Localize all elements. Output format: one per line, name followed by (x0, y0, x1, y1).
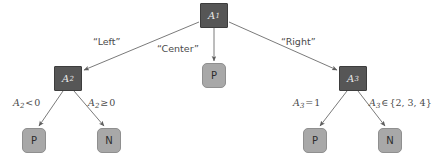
node-a1-subscript: 1 (216, 12, 220, 20)
edge-label-a3-equals-one: A3=1 (293, 98, 320, 110)
a3-eq-operator: = (305, 97, 313, 108)
leaf-node-a2-p[interactable]: P (22, 128, 46, 153)
a2-ge-operator: ≥ (100, 97, 108, 108)
edge-label-a2-ge-zero: A2≥0 (88, 98, 115, 110)
node-a1-var: A (208, 10, 215, 21)
a2-lt-subscript: 2 (20, 102, 24, 110)
edge-a2-to-leaf-p (39, 91, 63, 126)
node-a3-var: A (347, 73, 354, 84)
a3-eq-subscript: 3 (300, 102, 304, 110)
a2-lt-value: 0 (34, 97, 40, 108)
edge-label-right: “Right” (281, 37, 316, 47)
leaf-node-a3-p[interactable]: P (303, 128, 327, 153)
node-a2-var: A (62, 73, 69, 84)
edge-label-left: “Left” (93, 37, 120, 47)
a3-eq-value: 1 (314, 97, 320, 108)
a2-lt-operator: < (25, 97, 33, 108)
edge-a3-to-leaf-p (320, 91, 347, 126)
leaf-node-a2-n[interactable]: N (97, 128, 121, 153)
edge-label-a2-less-than-zero: A2<0 (13, 98, 40, 110)
node-a2[interactable]: A2 (54, 66, 82, 91)
leaf-node-center-p[interactable]: P (202, 63, 226, 88)
a2-ge-value: 0 (109, 97, 115, 108)
a2-ge-var: A (88, 97, 95, 108)
edge-label-center: “Center” (157, 44, 199, 54)
a3-in-value: {2, 3, 4} (389, 97, 431, 108)
a3-in-operator: ∈ (381, 97, 388, 108)
edge-label-a3-in-set: A3∈{2, 3, 4} (369, 98, 432, 110)
a2-ge-subscript: 2 (95, 102, 99, 110)
a3-in-subscript: 3 (376, 102, 380, 110)
node-a3[interactable]: A3 (339, 66, 367, 91)
a3-in-var: A (369, 97, 376, 108)
a2-lt-var: A (13, 97, 20, 108)
leaf-node-a3-n[interactable]: N (378, 128, 402, 153)
node-a3-subscript: 3 (355, 75, 359, 83)
node-a2-subscript: 2 (70, 75, 74, 83)
decision-tree-diagram: A1 A2 A3 P P N P N “Left” “Center” “Righ… (0, 0, 447, 163)
node-a1[interactable]: A1 (200, 3, 228, 28)
a3-eq-var: A (293, 97, 300, 108)
